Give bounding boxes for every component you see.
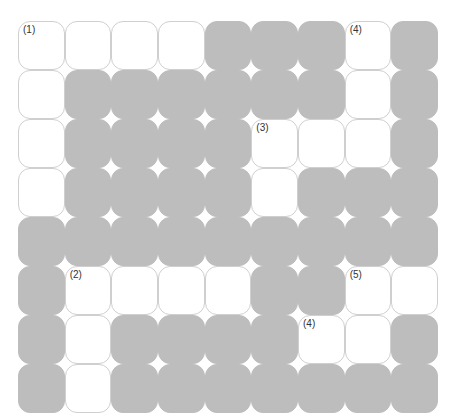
grid-cell-input[interactable] xyxy=(65,364,112,413)
grid-cell-blocked xyxy=(111,70,158,119)
grid-cell-blocked xyxy=(158,168,205,217)
grid-cell-blocked xyxy=(391,119,438,168)
clue-number-label: (4) xyxy=(303,319,315,329)
grid-cell-blocked xyxy=(65,217,112,266)
grid-cell-blocked xyxy=(391,315,438,364)
grid-cell-blocked xyxy=(111,217,158,266)
grid-cell-blocked xyxy=(158,119,205,168)
grid-cell-blocked xyxy=(158,70,205,119)
clue-number-label: (1) xyxy=(23,25,35,35)
grid-cell-input[interactable]: (4) xyxy=(298,315,345,364)
grid-cell-input[interactable] xyxy=(65,21,112,70)
grid-cell-blocked xyxy=(345,168,392,217)
grid-cell-input[interactable]: (4) xyxy=(345,21,392,70)
grid-cell-blocked xyxy=(251,315,298,364)
grid-cell-blocked xyxy=(391,70,438,119)
grid-cell-blocked xyxy=(18,266,65,315)
grid-cell-input[interactable] xyxy=(158,266,205,315)
grid-cell-blocked xyxy=(298,70,345,119)
grid-cell-blocked xyxy=(251,266,298,315)
grid-cell-input[interactable] xyxy=(111,21,158,70)
grid-cell-blocked xyxy=(251,21,298,70)
grid-cell-blocked xyxy=(298,364,345,413)
clue-number-label: (2) xyxy=(70,270,82,280)
grid-cell-input[interactable] xyxy=(111,266,158,315)
grid-cell-input[interactable] xyxy=(18,168,65,217)
clue-number-label: (3) xyxy=(256,123,268,133)
grid-cell-input[interactable] xyxy=(18,119,65,168)
grid-cell-blocked xyxy=(111,119,158,168)
grid-cell-blocked xyxy=(298,21,345,70)
grid-cell-blocked xyxy=(345,364,392,413)
grid-cell-blocked xyxy=(205,70,252,119)
grid-cell-input[interactable] xyxy=(65,315,112,364)
grid-cell-input[interactable] xyxy=(345,119,392,168)
grid-cell-blocked xyxy=(111,168,158,217)
grid-cell-blocked xyxy=(205,21,252,70)
grid-cell-input[interactable] xyxy=(391,266,438,315)
cropped-header-text xyxy=(0,0,454,4)
grid-cell-input[interactable] xyxy=(158,21,205,70)
grid-cell-blocked xyxy=(251,364,298,413)
crossword-grid: (1)(4)(3)(2)(5)(4) xyxy=(18,21,438,413)
grid-cell-blocked xyxy=(111,315,158,364)
grid-cell-input[interactable]: (2) xyxy=(65,266,112,315)
grid-cell-input[interactable] xyxy=(18,70,65,119)
grid-cell-blocked xyxy=(391,168,438,217)
grid-cell-blocked xyxy=(391,21,438,70)
grid-cell-blocked xyxy=(65,168,112,217)
grid-cell-blocked xyxy=(158,364,205,413)
grid-cell-blocked xyxy=(391,217,438,266)
grid-cell-blocked xyxy=(205,364,252,413)
grid-cell-input[interactable] xyxy=(205,266,252,315)
grid-cell-blocked xyxy=(158,315,205,364)
grid-cell-blocked xyxy=(205,119,252,168)
grid-cell-blocked xyxy=(298,266,345,315)
grid-cell-blocked xyxy=(251,217,298,266)
grid-cell-blocked xyxy=(65,119,112,168)
grid-cell-blocked xyxy=(65,70,112,119)
grid-cell-blocked xyxy=(298,168,345,217)
grid-cell-input[interactable]: (1) xyxy=(18,21,65,70)
grid-cell-input[interactable]: (3) xyxy=(251,119,298,168)
grid-cell-blocked xyxy=(18,315,65,364)
clue-number-label: (5) xyxy=(350,270,362,280)
grid-cell-blocked xyxy=(18,364,65,413)
grid-cell-blocked xyxy=(391,364,438,413)
grid-cell-input[interactable] xyxy=(298,119,345,168)
grid-cell-blocked xyxy=(205,168,252,217)
grid-cell-blocked xyxy=(111,364,158,413)
grid-cell-input[interactable]: (5) xyxy=(345,266,392,315)
clue-number-label: (4) xyxy=(350,25,362,35)
grid-cell-input[interactable] xyxy=(251,168,298,217)
grid-cell-input[interactable] xyxy=(345,70,392,119)
grid-cell-blocked xyxy=(298,217,345,266)
grid-cell-blocked xyxy=(345,217,392,266)
grid-cell-input[interactable] xyxy=(345,315,392,364)
grid-cell-blocked xyxy=(205,217,252,266)
grid-cell-blocked xyxy=(18,217,65,266)
grid-cell-blocked xyxy=(158,217,205,266)
grid-cell-blocked xyxy=(251,70,298,119)
grid-cell-blocked xyxy=(205,315,252,364)
